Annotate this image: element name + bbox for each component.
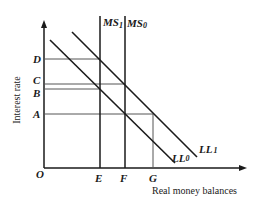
ll0-curve <box>50 40 175 163</box>
tick-e: E <box>94 172 102 184</box>
ms1-label: MS1 <box>102 16 123 30</box>
tick-b: B <box>32 87 40 99</box>
ll1-curve <box>72 32 197 157</box>
tick-d: D <box>32 53 41 65</box>
x-axis-title: Real money balances <box>152 185 237 196</box>
origin-label: O <box>36 168 44 180</box>
ms0-label: MS0 <box>126 17 147 30</box>
tick-c: C <box>33 74 41 86</box>
y-axis-title: Interest rate <box>11 76 22 124</box>
y-axis-arrow-icon <box>41 20 47 28</box>
ll0-label: LL0 <box>171 152 189 164</box>
x-axis-arrow-icon <box>239 165 247 171</box>
tick-a: A <box>32 108 40 120</box>
ll1-label: LL1 <box>198 143 217 155</box>
tick-f: F <box>119 172 128 184</box>
tick-g: G <box>149 172 157 184</box>
money-market-diagram: D C B A O E F G MS1 MS0 LL0 LL1 Real mon… <box>0 0 259 207</box>
